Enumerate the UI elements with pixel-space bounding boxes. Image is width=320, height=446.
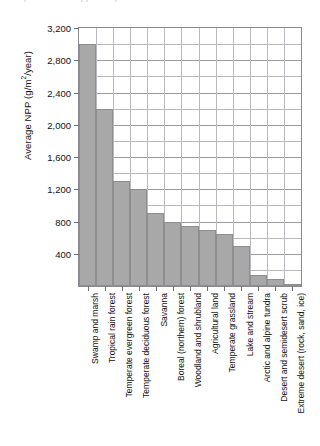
x-axis-tick-mark xyxy=(275,286,276,291)
y-axis-title: Average NPP (g/m2/year) xyxy=(22,16,33,196)
bar xyxy=(96,109,113,286)
x-axis-tick-mark xyxy=(224,286,225,291)
x-axis-label-cell: Temperate grassland xyxy=(216,293,233,443)
x-axis-label-cell: Swamp and marsh xyxy=(78,293,95,443)
y-axis-tick-label: 2,000 xyxy=(11,119,71,130)
y-axis-tick-label: 400 xyxy=(11,248,71,259)
y-axis-tick-label: 2,800 xyxy=(11,55,71,66)
x-axis-label-cell: Tropical rain forest xyxy=(95,293,112,443)
x-axis-label-cell: Woodland and shrubland xyxy=(181,293,198,443)
bar xyxy=(164,222,181,287)
bar-cell xyxy=(79,28,96,286)
x-axis-tick-mark xyxy=(207,286,208,291)
bar-cell xyxy=(216,28,233,286)
bar-cell xyxy=(164,28,181,286)
x-axis-tick-mark xyxy=(88,286,89,291)
bar-cell xyxy=(147,28,164,286)
y-axis-tick-label: 1,600 xyxy=(11,152,71,163)
x-axis-label-cell: Extreme desert (rock, sand, ice) xyxy=(285,293,302,443)
bar xyxy=(199,230,216,286)
bar-cell xyxy=(267,28,284,286)
x-axis-label-cell: Desert and semidesert scrub xyxy=(268,293,285,443)
x-axis-tick-mark xyxy=(241,286,242,291)
x-axis-category-label: Extreme desert (rock, sand, ice) xyxy=(298,293,307,413)
x-axis-tick-mark xyxy=(292,286,293,291)
x-axis-tick-mark xyxy=(190,286,191,291)
bar xyxy=(79,44,96,286)
x-axis-tick-mark xyxy=(139,286,140,291)
x-axis-label-cell: Agricultural land xyxy=(199,293,216,443)
x-axis-label-cell: Lake and stream xyxy=(233,293,250,443)
bar-cell xyxy=(284,28,301,286)
bar xyxy=(267,279,284,286)
bar xyxy=(113,181,130,286)
bar xyxy=(284,284,301,286)
bar xyxy=(130,189,147,286)
x-axis-category-labels: Swamp and marshTropical rain forestTempe… xyxy=(78,293,302,443)
bar-cell xyxy=(113,28,130,286)
x-axis-tick-mark xyxy=(258,286,259,291)
y-axis-title-exponent: 2 xyxy=(20,76,27,80)
y-axis-tick-label: 800 xyxy=(11,216,71,227)
y-axis-tick-label: 3,200 xyxy=(11,23,71,34)
bar-cell xyxy=(199,28,216,286)
bar-cell xyxy=(130,28,147,286)
x-axis-label-cell: Temperate evergreen forest xyxy=(112,293,129,443)
bar-cell xyxy=(181,28,198,286)
bar-cell xyxy=(250,28,267,286)
bar-series xyxy=(79,28,301,286)
y-axis-tick-label: 2,400 xyxy=(11,87,71,98)
x-axis-tick-mark xyxy=(156,286,157,291)
bar xyxy=(181,226,198,286)
cropped-caption-text: parts of a cropped caption line xyxy=(24,0,154,2)
bar xyxy=(147,213,164,286)
plot-area: 3,2002,8002,4002,0001,6001,200800400 xyxy=(78,27,302,287)
bar-cell xyxy=(233,28,250,286)
x-axis-label-cell: Temperate deciduous forest xyxy=(130,293,147,443)
x-axis-label-cell: Boreal (northern) forest xyxy=(164,293,181,443)
bar xyxy=(250,275,267,286)
x-axis-tick-mark xyxy=(173,286,174,291)
x-axis-label-cell: Arctic and alpine tundra xyxy=(250,293,267,443)
npp-bar-chart-figure: parts of a cropped caption line Average … xyxy=(0,0,320,446)
y-axis-tick-label: 1,200 xyxy=(11,184,71,195)
cropped-caption-sliver: parts of a cropped caption line xyxy=(0,0,320,7)
x-axis-tick-mark xyxy=(105,286,106,291)
x-axis-label-cell: Savanna xyxy=(147,293,164,443)
x-axis-tick-mark xyxy=(122,286,123,291)
bar xyxy=(233,246,250,286)
bar-cell xyxy=(96,28,113,286)
bar xyxy=(216,234,233,286)
